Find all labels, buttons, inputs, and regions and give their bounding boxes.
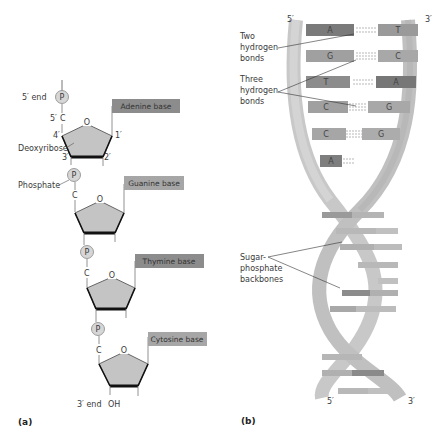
c4-label: 4′: [53, 131, 60, 140]
base-pair-1: A T: [306, 24, 418, 36]
c2-label: 2′: [104, 153, 111, 162]
base-left: A: [327, 26, 333, 35]
phosphate-symbol: P: [72, 171, 77, 180]
phosphate-symbol: P: [60, 93, 65, 102]
deoxyribose-label: Deoxyribose: [18, 144, 68, 153]
base-left: C: [323, 130, 329, 139]
callout-line: hydrogen: [240, 43, 278, 52]
callout-line: backbones: [240, 275, 283, 284]
callout-line: bonds: [240, 54, 264, 63]
carbon-label: C: [60, 114, 66, 123]
ring-oxygen-label: O: [121, 346, 127, 355]
carbon-label: C: [96, 346, 102, 355]
base-left: T: [323, 78, 329, 87]
cytosine-base-label: Cytosine base: [151, 335, 204, 344]
nucleotide-cytosine: P C O Cytosine base 3′ end OH: [77, 309, 207, 409]
adenine-base-label: Adenine base: [121, 102, 172, 111]
c1-label: 1′: [115, 131, 122, 140]
c5-label: 5′: [50, 114, 57, 123]
base-left: C: [323, 103, 329, 112]
base-pair-3: T A: [306, 76, 416, 88]
base-right: G: [378, 130, 384, 139]
thymine-base-label: Thymine base: [142, 257, 196, 266]
callout-line: Two: [239, 32, 255, 41]
ring-oxygen-label: O: [109, 271, 115, 280]
dna-structure-diagram: P 5′ end 5′ C O 4′ 1′ 3′ 2′ Deoxyribose …: [0, 0, 437, 446]
top-three-prime-label: 3′: [425, 15, 432, 24]
base-left: A: [328, 157, 334, 166]
nucleotide-adenine: P 5′ end 5′ C O 4′ 1′ 3′ 2′ Deoxyribose …: [18, 91, 180, 167]
callout-line: hydrogen: [240, 86, 278, 95]
guanine-base-label: Guanine base: [128, 179, 180, 188]
nucleotide-guanine: P Phosphate C O Guanine base: [18, 157, 184, 242]
phosphate-symbol: P: [85, 248, 90, 257]
base-pair-4: C G: [308, 101, 410, 113]
ring-oxygen-label: O: [97, 195, 103, 204]
three-prime-end-label: 3′ end: [77, 400, 102, 409]
base-pair-5: C G: [312, 128, 400, 140]
panel-b-double-helix: A T G C T A C: [239, 15, 432, 426]
phosphate-symbol: P: [96, 325, 101, 334]
carbon-label: C: [72, 191, 78, 200]
c3-label: 3′: [62, 153, 69, 162]
carbon-label: C: [84, 269, 90, 278]
callout-line: Three: [239, 75, 263, 84]
base-right: G: [386, 103, 392, 112]
callout-line: Sugar-: [240, 253, 266, 262]
nucleotide-thymine: P C O Thymine base: [81, 233, 205, 318]
hydroxyl-label: OH: [108, 400, 120, 409]
top-five-prime-label: 5′: [287, 15, 294, 24]
callout-line: bonds: [240, 97, 264, 106]
phosphate-label: Phosphate: [18, 181, 60, 190]
panel-a-label: (a): [18, 417, 32, 427]
base-right: C: [395, 52, 401, 61]
base-left: G: [327, 52, 333, 61]
panel-a-nucleotide-chain: P 5′ end 5′ C O 4′ 1′ 3′ 2′ Deoxyribose …: [18, 80, 207, 427]
base-pair-6: A: [320, 155, 355, 167]
five-prime-end-label: 5′ end: [22, 93, 47, 102]
base-right: T: [395, 26, 401, 35]
bottom-five-prime-label: 5′: [327, 397, 334, 406]
base-pair-2: G C: [306, 50, 418, 62]
base-right: A: [393, 78, 399, 87]
panel-b-label: (b): [241, 416, 256, 426]
ring-oxygen-label: O: [84, 118, 90, 127]
bottom-three-prime-label: 3′: [408, 397, 415, 406]
callout-line: phosphate: [240, 264, 282, 273]
